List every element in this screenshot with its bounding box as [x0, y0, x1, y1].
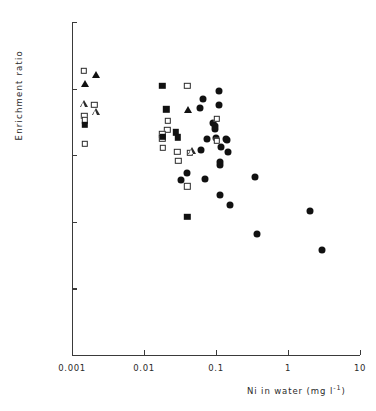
data-point-filled-circle	[215, 88, 222, 95]
data-point-filled-circle	[197, 104, 204, 111]
x-axis-line	[72, 355, 360, 356]
data-point-open-square	[175, 157, 181, 163]
y-tick-label: 10	[0, 283, 66, 293]
x-axis-title-tail: )	[341, 386, 345, 396]
data-point-filled-circle	[253, 230, 260, 237]
axis-end-cap	[72, 355, 77, 356]
data-point-open-square	[213, 138, 219, 144]
data-point-filled-circle	[212, 126, 219, 133]
y-tick-mark	[72, 155, 77, 156]
x-tick-label: 10	[354, 363, 366, 373]
data-point-filled-square	[160, 134, 166, 140]
data-point-open-square	[174, 149, 180, 155]
y-tick-mark	[72, 222, 77, 223]
data-point-filled-circle	[215, 101, 222, 108]
x-axis-title: Ni in water (mg l-1)	[247, 384, 346, 396]
data-point-filled-circle	[183, 170, 190, 177]
data-point-filled-circle	[197, 147, 204, 154]
data-point-filled-triangle	[184, 106, 192, 113]
data-point-open-square	[213, 116, 219, 122]
x-tick-mark	[144, 350, 145, 355]
x-tick-label: 0.1	[208, 363, 223, 373]
x-tick-mark	[72, 350, 73, 355]
plot-area: 110100100010000100000 0.0010.010.1110	[72, 22, 360, 355]
y-axis-line	[72, 22, 73, 355]
data-point-filled-circle	[319, 246, 326, 253]
y-tick-mark	[72, 288, 77, 289]
y-tick-label: 1	[0, 350, 66, 360]
x-tick-mark	[216, 350, 217, 355]
data-point-filled-square	[163, 106, 169, 112]
data-point-filled-circle	[216, 161, 223, 168]
y-tick-label: 100	[0, 217, 66, 227]
data-point-filled-circle	[225, 148, 232, 155]
scatter-plot-figure: Enrichment ratio Ni in water (mg l-1) 11…	[0, 0, 376, 411]
x-tick-label: 1	[285, 363, 291, 373]
data-point-filled-circle	[204, 135, 211, 142]
y-tick-mark	[72, 89, 77, 90]
data-point-filled-square	[175, 134, 181, 140]
data-point-open-square	[165, 117, 171, 123]
data-point-open-square	[80, 68, 86, 74]
x-tick-mark	[360, 350, 361, 355]
data-point-filled-circle	[223, 136, 230, 143]
data-point-filled-circle	[201, 175, 208, 182]
data-point-open-square	[184, 183, 190, 189]
data-point-filled-square	[184, 213, 190, 219]
data-point-filled-circle	[252, 174, 259, 181]
data-point-open-square	[184, 83, 190, 89]
data-point-filled-circle	[226, 201, 233, 208]
data-point-open-triangle	[188, 147, 196, 154]
data-points-layer	[72, 22, 360, 43]
data-point-open-square	[82, 141, 88, 147]
y-tick-label: 1000	[0, 150, 66, 160]
y-tick-label: 100000	[0, 17, 66, 27]
data-point-open-square	[160, 145, 166, 151]
data-point-filled-circle	[199, 95, 206, 102]
axis-end-cap	[72, 22, 77, 23]
x-tick-label: 0.01	[133, 363, 154, 373]
data-point-open-triangle	[92, 108, 100, 115]
x-tick-mark	[288, 350, 289, 355]
data-point-filled-circle	[307, 208, 314, 215]
y-axis-title: Enrichment ratio	[14, 50, 24, 140]
data-point-filled-triangle	[92, 71, 100, 78]
data-point-filled-triangle	[81, 80, 89, 87]
data-point-open-triangle	[80, 100, 88, 107]
data-point-filled-square	[159, 82, 165, 88]
data-point-filled-circle	[216, 192, 223, 199]
data-point-filled-square	[81, 122, 87, 128]
x-tick-label: 0.001	[58, 363, 85, 373]
data-point-filled-circle	[217, 144, 224, 151]
x-axis-title-base: Ni in water (mg l	[247, 386, 333, 396]
y-tick-label: 10000	[0, 84, 66, 94]
